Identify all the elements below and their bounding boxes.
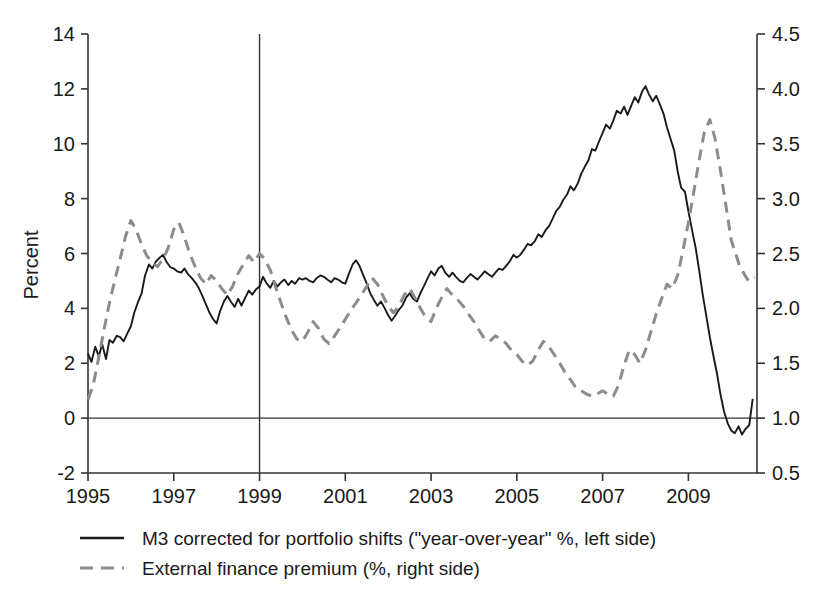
left-axis-tick-label: 14: [53, 23, 75, 45]
x-axis-tick-label: 2009: [666, 485, 711, 507]
x-axis-tick-label: 2001: [323, 485, 368, 507]
x-axis-tick-label: 1997: [152, 485, 197, 507]
right-axis-tick-label: 4.0: [772, 78, 800, 100]
left-axis-tick-label: 4: [64, 297, 75, 319]
x-axis-tick-label: 2003: [409, 485, 454, 507]
left-axis-tick-label: -2: [57, 462, 75, 484]
chart-canvas: -202468101214 0.51.01.52.02.53.03.54.04.…: [0, 0, 836, 590]
x-axis-tick-label: 1995: [66, 485, 111, 507]
right-axis-tick-label: 1.0: [772, 407, 800, 429]
left-axis-tick-label: 2: [64, 352, 75, 374]
y-axis-title: Percent: [20, 230, 42, 299]
x-axis-tick-label: 1999: [237, 485, 282, 507]
legend-label: External finance premium (%, right side): [142, 558, 480, 579]
x-axis-tick-label: 2007: [580, 485, 625, 507]
left-axis-tick-label: 0: [64, 407, 75, 429]
left-axis-tick-label: 6: [64, 243, 75, 265]
left-axis-tick-label: 8: [64, 188, 75, 210]
right-axis-tick-label: 3.0: [772, 188, 800, 210]
right-axis-tick-label: 4.5: [772, 23, 800, 45]
right-axis-tick-label: 0.5: [772, 462, 800, 484]
right-axis-tick-label: 1.5: [772, 352, 800, 374]
chart-figure: -202468101214 0.51.01.52.02.53.03.54.04.…: [0, 0, 836, 590]
right-axis-tick-label: 3.5: [772, 133, 800, 155]
x-axis-tick-label: 2005: [495, 485, 540, 507]
right-axis-tick-label: 2.5: [772, 243, 800, 265]
right-axis-tick-label: 2.0: [772, 297, 800, 319]
left-axis-tick-label: 10: [53, 133, 75, 155]
left-axis-tick-label: 12: [53, 78, 75, 100]
legend-label: M3 corrected for portfolio shifts ("year…: [142, 528, 656, 549]
y-axis-title-text: Percent: [20, 230, 42, 299]
